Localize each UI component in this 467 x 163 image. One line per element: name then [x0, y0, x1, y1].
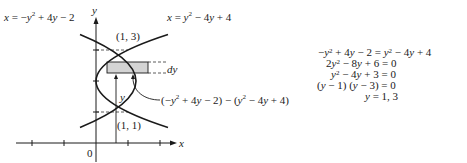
curve-label-right-opening: x = y2 − 4y + 4 [167, 12, 231, 23]
region-between-curves-figure: x = −y2 + 4y − 2 x = y2 − 4y + 4 y x 0 (… [0, 0, 467, 163]
intersection-label-top: (1, 3) [116, 31, 140, 42]
dashed-guides [96, 50, 166, 112]
curve-label-left-opening: x = −y2 + 4y − 2 [4, 12, 75, 23]
derivation-line-5: y = 1, 3 [365, 91, 398, 103]
dy-label: dy [167, 64, 177, 75]
intersection-label-bottom: (1, 1) [117, 120, 141, 131]
origin-label: 0 [87, 148, 93, 159]
x-axis-label: x [179, 138, 184, 149]
graph-svg [0, 0, 467, 163]
curve-left-opening [80, 35, 136, 128]
strip-length-label: (−y2 + 4y − 2) − (y2 − 4y + 4) [161, 95, 289, 106]
y-height-label: y [120, 92, 125, 103]
curve-right-opening [96, 35, 168, 128]
y-axis-label: y [92, 5, 97, 16]
